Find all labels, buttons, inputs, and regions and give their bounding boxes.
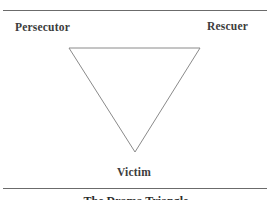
- victim-label: Victim: [117, 166, 151, 179]
- figure-caption: The Drama Triangle: [0, 194, 272, 200]
- bottom-rule: [3, 188, 267, 189]
